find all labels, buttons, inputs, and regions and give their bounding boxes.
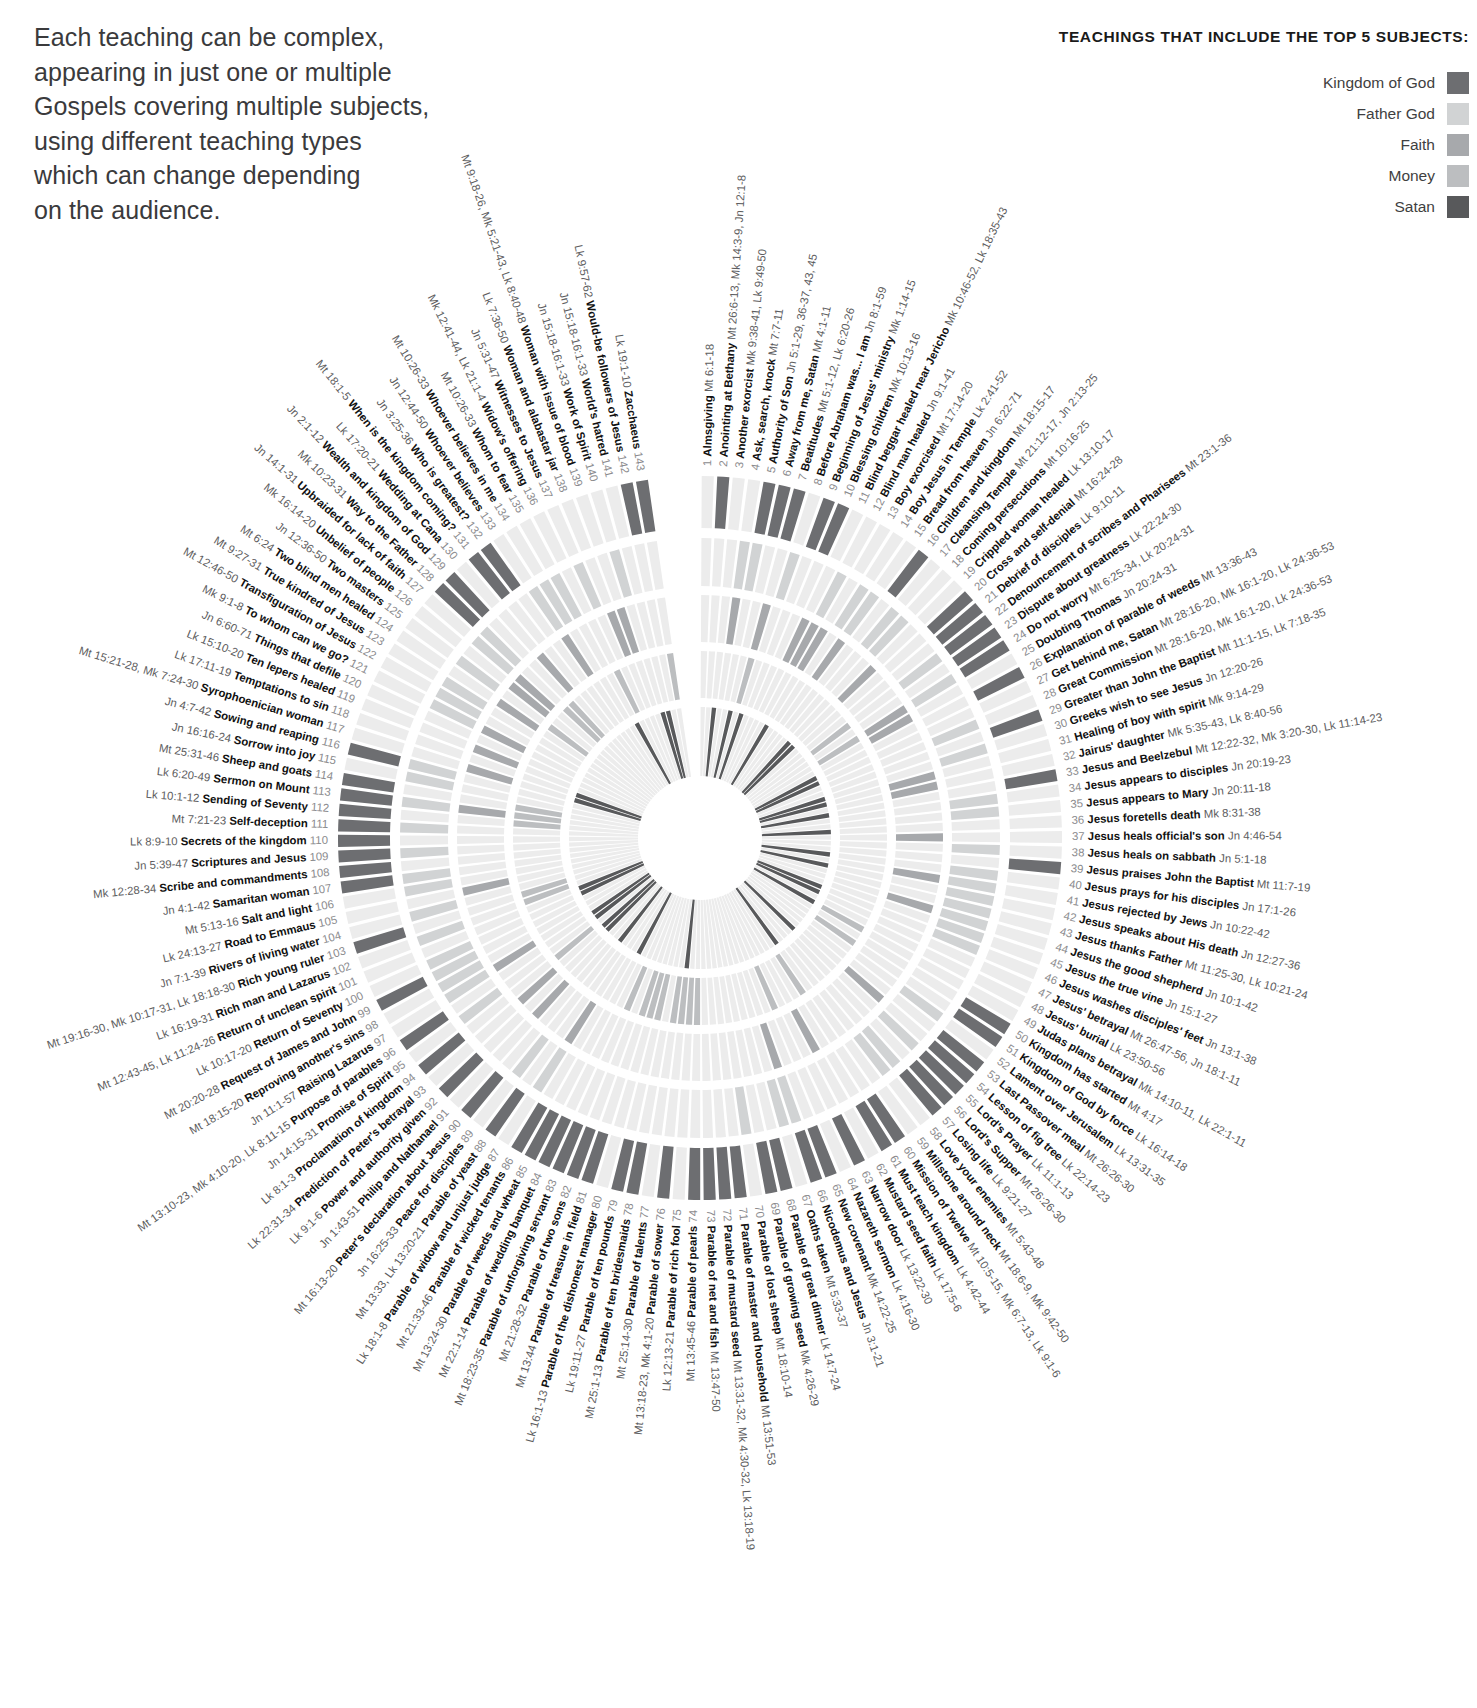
chart-segment-active[interactable] (400, 823, 448, 834)
teaching-label[interactable]: Lk 8:9-10 Secrets of the kingdom 110 (130, 834, 328, 848)
chart-segment-active[interactable] (400, 847, 448, 859)
chart-segment-empty[interactable] (709, 595, 719, 642)
chart-segment-empty[interactable] (728, 477, 745, 530)
chart-segment-empty[interactable] (952, 819, 1000, 830)
chart-segment-empty[interactable] (762, 835, 831, 839)
chart-segment-empty[interactable] (702, 1034, 711, 1081)
chart-segment-active[interactable] (715, 476, 730, 529)
chart-segment-empty[interactable] (1009, 815, 1061, 829)
chart-segment-active[interactable] (339, 862, 392, 878)
chart-segment-empty[interactable] (513, 828, 560, 835)
chart-segment-active[interactable] (338, 835, 390, 847)
chart-segment-active[interactable] (952, 844, 1000, 855)
chart-segment-empty[interactable] (896, 823, 943, 832)
chart-segment-empty[interactable] (840, 841, 887, 848)
chart-segment-empty[interactable] (952, 832, 1000, 842)
chart-segment-empty[interactable] (701, 978, 708, 1025)
chart-segment-active[interactable] (339, 804, 392, 819)
chart-segment-empty[interactable] (701, 595, 709, 642)
chart-segment-empty[interactable] (401, 810, 450, 823)
chart-segment-active[interactable] (896, 833, 943, 841)
teaching-label[interactable]: 38 Jesus heals on sabbath Jn 5:1-18 (1071, 846, 1266, 866)
chart-segment-empty[interactable] (951, 855, 1000, 868)
chart-segment-empty[interactable] (690, 1090, 700, 1138)
chart-segment-empty[interactable] (1010, 845, 1062, 858)
teaching-label[interactable]: 1 Almsgiving Mt 6:1-18 (701, 344, 716, 466)
chart-segment-empty[interactable] (701, 651, 707, 698)
teaching-label[interactable]: 73 Parable of net and fish Mt 13:47-50 (705, 1210, 722, 1412)
chart-segments (338, 476, 1062, 1200)
chart-segment-active[interactable] (694, 978, 700, 1025)
chart-segment-active[interactable] (951, 806, 1000, 819)
chart-segment-empty[interactable] (701, 538, 711, 586)
chart-segment-empty[interactable] (713, 1089, 726, 1138)
chart-segment-empty[interactable] (457, 825, 504, 834)
chart-segment-empty[interactable] (513, 836, 560, 842)
chart-segment-empty[interactable] (682, 1033, 692, 1080)
chart-segment-active[interactable] (703, 1148, 716, 1200)
chart-segment-empty[interactable] (692, 1034, 700, 1081)
chart-segment-active[interactable] (338, 849, 391, 863)
chart-segment-empty[interactable] (710, 1033, 721, 1080)
chart-segment-empty[interactable] (457, 836, 504, 844)
chart-svg: 1 Almsgiving Mt 6:1-182 Anointing at Bet… (0, 0, 1477, 1708)
chart-segment-empty[interactable] (1008, 800, 1061, 816)
chart-segment-empty[interactable] (1010, 831, 1062, 843)
chart-segment-empty[interactable] (840, 834, 887, 840)
chart-segment-empty[interactable] (400, 835, 448, 845)
chart-segment-empty[interactable] (896, 843, 943, 852)
chart-segment-empty[interactable] (701, 476, 713, 528)
chart-segment-empty[interactable] (457, 845, 504, 855)
radial-teachings-chart: 1 Almsgiving Mt 6:1-182 Anointing at Bet… (0, 0, 1477, 1708)
teaching-label[interactable]: Mt 13:45-46 Parable of pearls 74 (684, 1210, 699, 1382)
chart-segment-active[interactable] (716, 1147, 731, 1200)
chart-segment-empty[interactable] (703, 1090, 714, 1138)
chart-segment-empty[interactable] (401, 857, 450, 871)
chart-segment-empty[interactable] (840, 826, 887, 834)
teaching-label[interactable]: Mt 7:21-23 Self-deception 111 (172, 813, 329, 830)
teaching-label[interactable]: 36 Jesus foretells death Mk 8:31-38 (1071, 805, 1261, 826)
chart-segment-active[interactable] (688, 1148, 700, 1200)
chart-segment-active[interactable] (1008, 859, 1061, 875)
chart-segment-empty[interactable] (677, 1089, 689, 1137)
chart-segment-active[interactable] (338, 819, 390, 832)
chart-segment-empty[interactable] (712, 538, 724, 586)
chart-segment-empty[interactable] (673, 1147, 687, 1200)
teaching-label[interactable]: 37 Jesus heals official's son Jn 4:46-54 (1072, 829, 1282, 842)
chart-segment-active[interactable] (657, 1146, 674, 1199)
chart-labels: 1 Almsgiving Mt 6:1-182 Anointing at Bet… (45, 153, 1383, 1551)
